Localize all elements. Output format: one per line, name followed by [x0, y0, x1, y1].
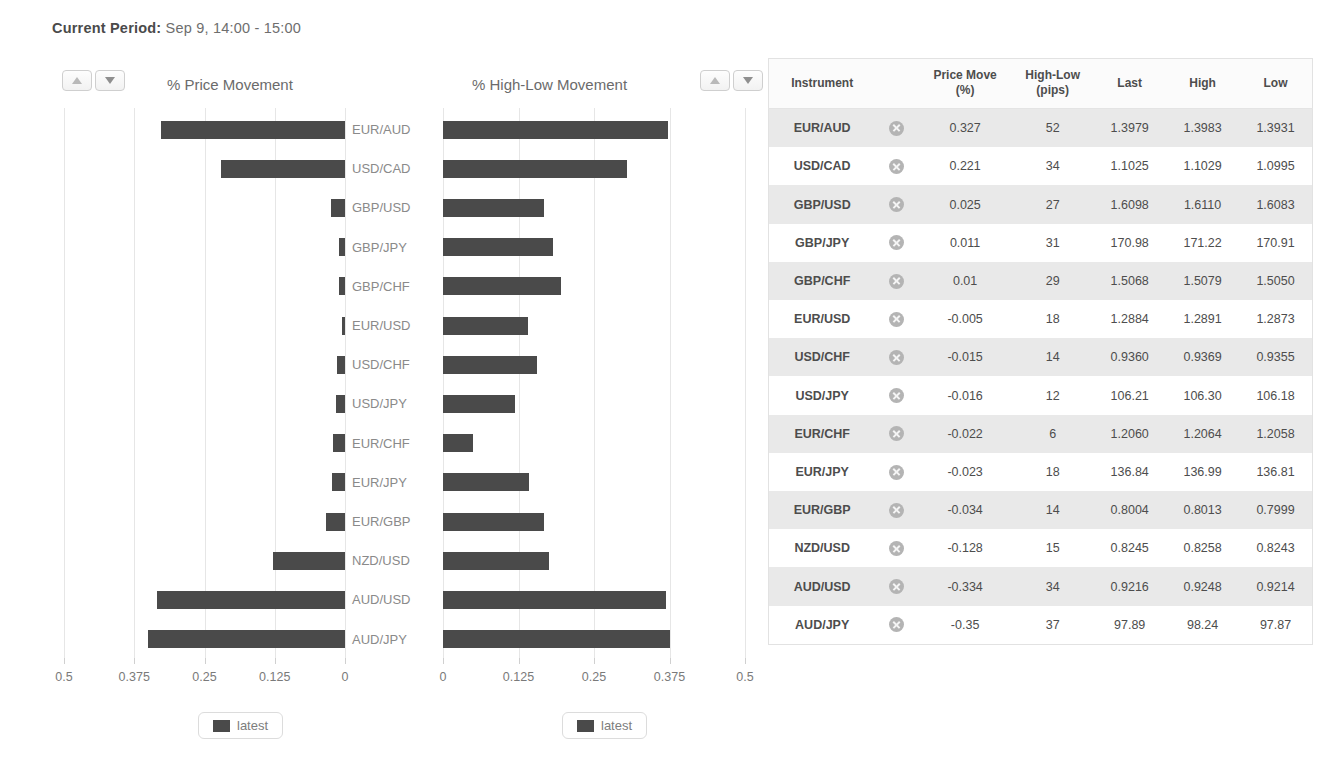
table-row[interactable]: USD/JPY-0.01612106.21106.30106.18 — [769, 376, 1313, 414]
remove-circle-icon[interactable] — [889, 465, 904, 480]
remove-circle-icon[interactable] — [889, 579, 904, 594]
chart-bar[interactable] — [337, 356, 345, 374]
table-row[interactable]: AUD/JPY-0.353797.8998.2497.87 — [769, 606, 1313, 645]
chart-bar[interactable] — [342, 317, 345, 335]
axis-tick-label: 0.25 — [192, 670, 216, 684]
cell-low: 1.2873 — [1239, 300, 1312, 338]
remove-circle-icon[interactable] — [889, 312, 904, 327]
axis-tick-label: 0 — [440, 670, 447, 684]
cell-low: 1.5050 — [1239, 262, 1312, 300]
chart-bar[interactable] — [443, 591, 666, 609]
cell-last: 0.9216 — [1093, 567, 1166, 605]
sort-descending-button-right[interactable] — [733, 70, 763, 91]
sort-controls-high-low-movement — [700, 70, 763, 91]
remove-circle-icon[interactable] — [889, 274, 904, 289]
chart-bar[interactable] — [339, 238, 345, 256]
cell-last: 0.9360 — [1093, 338, 1166, 376]
legend-high-low-movement[interactable]: latest — [562, 712, 647, 739]
chart-bar[interactable] — [161, 121, 345, 139]
chart-bar[interactable] — [443, 160, 627, 178]
chart-bar[interactable] — [336, 395, 345, 413]
remove-circle-icon[interactable] — [889, 426, 904, 441]
column-header-price-move-text: Price Move — [933, 68, 996, 82]
cell-last: 0.8004 — [1093, 491, 1166, 529]
column-header-high[interactable]: High — [1166, 59, 1239, 109]
cell-low: 106.18 — [1239, 376, 1312, 414]
chart-category-label: USD/JPY — [352, 384, 407, 423]
table-row[interactable]: EUR/CHF-0.02261.20601.20641.2058 — [769, 415, 1313, 453]
remove-circle-icon[interactable] — [889, 197, 904, 212]
remove-circle-icon[interactable] — [889, 503, 904, 518]
chart-bar[interactable] — [443, 277, 561, 295]
chart-bar[interactable] — [443, 121, 668, 139]
column-header-high-low[interactable]: High-Low (pips) — [1012, 59, 1093, 109]
sort-ascending-button-right[interactable] — [700, 70, 730, 91]
chart-bar[interactable] — [273, 552, 345, 570]
column-header-instrument[interactable]: Instrument — [769, 59, 876, 109]
cell-price-move: -0.015 — [918, 338, 1012, 376]
chart-bar[interactable] — [443, 395, 515, 413]
cell-instrument: EUR/USD — [769, 300, 876, 338]
remove-circle-icon[interactable] — [889, 617, 904, 632]
table-row[interactable]: EUR/GBP-0.034140.80040.80130.7999 — [769, 491, 1313, 529]
chart-bar[interactable] — [332, 473, 345, 491]
cell-remove — [875, 606, 918, 645]
remove-circle-icon[interactable] — [889, 350, 904, 365]
cell-instrument: AUD/USD — [769, 567, 876, 605]
chart-bar[interactable] — [443, 317, 528, 335]
column-header-price-move[interactable]: Price Move (%) — [918, 59, 1012, 109]
legend-price-movement[interactable]: latest — [198, 712, 283, 739]
chart-bar[interactable] — [331, 199, 345, 217]
chart-bar[interactable] — [443, 473, 529, 491]
table-row[interactable]: GBP/USD0.025271.60981.61101.6083 — [769, 185, 1313, 223]
table-row[interactable]: GBP/CHF0.01291.50681.50791.5050 — [769, 262, 1313, 300]
sort-descending-button-left[interactable] — [95, 70, 125, 91]
remove-circle-icon[interactable] — [889, 388, 904, 403]
table-row[interactable]: EUR/AUD0.327521.39791.39831.3931 — [769, 109, 1313, 148]
chart-bar[interactable] — [443, 434, 473, 452]
cell-last: 1.3979 — [1093, 109, 1166, 148]
remove-circle-icon[interactable] — [889, 235, 904, 250]
cell-instrument: EUR/JPY — [769, 453, 876, 491]
chart-bar[interactable] — [157, 591, 345, 609]
table-row[interactable]: USD/CHF-0.015140.93600.93690.9355 — [769, 338, 1313, 376]
chart-bar[interactable] — [443, 356, 537, 374]
cell-remove — [875, 147, 918, 185]
axis-tick — [64, 658, 65, 664]
chart-bar[interactable] — [326, 513, 345, 531]
chart-bar[interactable] — [339, 277, 345, 295]
sort-ascending-button-left[interactable] — [62, 70, 92, 91]
chart-bar[interactable] — [221, 160, 345, 178]
chart-category-label: GBP/USD — [352, 188, 411, 227]
remove-circle-icon[interactable] — [889, 541, 904, 556]
chart-bar[interactable] — [333, 434, 345, 452]
cell-last: 106.21 — [1093, 376, 1166, 414]
triangle-up-icon — [72, 77, 82, 84]
cell-high: 0.9369 — [1166, 338, 1239, 376]
chart-bar[interactable] — [443, 630, 670, 648]
column-header-last[interactable]: Last — [1093, 59, 1166, 109]
table-row[interactable]: EUR/USD-0.005181.28841.28911.2873 — [769, 300, 1313, 338]
chart-high-low-movement[interactable]: 00.1250.250.3750.5 — [443, 108, 745, 658]
table-row[interactable]: NZD/USD-0.128150.82450.82580.8243 — [769, 529, 1313, 567]
chart-title-high-low-movement: % High-Low Movement — [472, 76, 627, 93]
chart-bar[interactable] — [443, 513, 544, 531]
cell-instrument: USD/CHF — [769, 338, 876, 376]
chart-category-label: USD/CAD — [352, 149, 411, 188]
legend-label: latest — [601, 718, 632, 733]
column-header-low[interactable]: Low — [1239, 59, 1312, 109]
table-row[interactable]: AUD/USD-0.334340.92160.92480.9214 — [769, 567, 1313, 605]
table-row[interactable]: GBP/JPY0.01131170.98171.22170.91 — [769, 224, 1313, 262]
chart-bar[interactable] — [443, 552, 549, 570]
chart-bar[interactable] — [443, 238, 553, 256]
chart-bar[interactable] — [443, 199, 544, 217]
cell-remove — [875, 338, 918, 376]
remove-circle-icon[interactable] — [889, 121, 904, 136]
cell-low: 1.6083 — [1239, 185, 1312, 223]
table-row[interactable]: USD/CAD0.221341.10251.10291.0995 — [769, 147, 1313, 185]
cell-remove — [875, 224, 918, 262]
table-row[interactable]: EUR/JPY-0.02318136.84136.99136.81 — [769, 453, 1313, 491]
remove-circle-icon[interactable] — [889, 159, 904, 174]
chart-bar[interactable] — [148, 630, 345, 648]
chart-price-movement[interactable]: 0.50.3750.250.1250 — [64, 108, 345, 658]
